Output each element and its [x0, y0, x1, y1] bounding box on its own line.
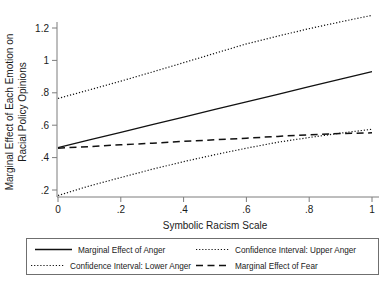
chart-legend: Marginal Effect of Anger Confidence Inte… — [27, 239, 379, 275]
legend-label-marginal-effect-of-anger: Marginal Effect of Anger — [78, 246, 166, 255]
y-tick-label-0.4: .4 — [41, 152, 50, 163]
series-confidence-interval-lower-anger — [58, 129, 372, 195]
y-tick-label-0.6: .6 — [41, 120, 50, 131]
y-tick-label-0.2: .2 — [41, 185, 50, 196]
legend-label-confidence-interval-upper-anger: Confidence Interval: Upper Anger — [235, 246, 356, 255]
y-axis-ticks: 1.2 1 .8 .6 .4 .2 — [35, 23, 57, 196]
x-tick-label-1: 1 — [369, 204, 375, 215]
x-tick-label-0.8: .8 — [305, 204, 314, 215]
x-tick-label-0.4: .4 — [179, 204, 188, 215]
y-tick-label-0.8: .8 — [41, 87, 50, 98]
legend-label-marginal-effect-of-fear: Marginal Effect of Fear — [235, 262, 318, 271]
y-tick-label-1: 1 — [43, 55, 49, 66]
y-axis-title-line1: Marginal Effect of Each Emotion on — [4, 34, 15, 191]
legend-label-confidence-interval-lower-anger: Confidence Interval: Lower Anger — [70, 262, 191, 271]
series-confidence-interval-upper-anger — [58, 15, 372, 98]
chart-figure: Marginal Effect of Each Emotion on Racia… — [0, 0, 386, 282]
series-marginal-effect-of-anger — [58, 72, 372, 148]
x-tick-label-0.6: .6 — [242, 204, 251, 215]
y-axis-title-line2: Racial Policy Opinions — [17, 62, 28, 162]
x-tick-label-0.2: .2 — [117, 204, 126, 215]
x-axis-ticks: 0 .2 .4 .6 .8 1 — [55, 197, 375, 215]
x-axis-title: Symbolic Racism Scale — [163, 220, 268, 231]
y-tick-label-1.2: 1.2 — [35, 23, 49, 34]
series-group — [58, 15, 372, 195]
line-chart: Marginal Effect of Each Emotion on Racia… — [0, 0, 386, 282]
x-tick-label-0: 0 — [55, 204, 61, 215]
